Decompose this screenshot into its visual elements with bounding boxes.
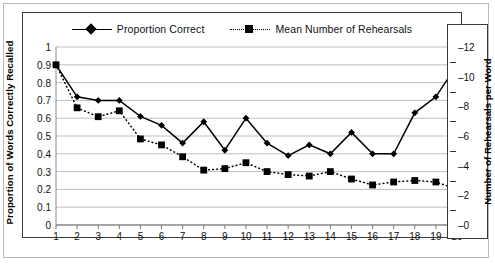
y-axis-tick-label: 0.8 xyxy=(23,77,51,88)
x-axis-tick-label: 1 xyxy=(53,231,59,242)
x-axis-tick-label: 17 xyxy=(388,231,399,242)
y2-axis-tick-label: –10 xyxy=(458,71,475,82)
y2-axis-tick-label: –6 xyxy=(458,131,469,142)
data-point xyxy=(411,177,418,184)
y-axis-tick-label: 0.7 xyxy=(23,95,51,106)
y-axis-tick-label: 0.9 xyxy=(23,59,51,70)
x-axis-tick-label: 12 xyxy=(283,231,294,242)
left-axis-title-text: Proportion of Words Correctly Recalled xyxy=(5,40,16,224)
x-axis-tick-label: 11 xyxy=(262,231,272,242)
y-axis-tick-label: 0.1 xyxy=(23,202,51,213)
data-point xyxy=(327,168,334,175)
data-point xyxy=(95,97,102,104)
plot-frame: Proportion Correct Mean Number of Rehear… xyxy=(22,12,462,238)
y2-axis-minor-tick xyxy=(450,62,456,63)
y2-axis-tick-label: –12 xyxy=(458,42,475,53)
x-axis-tick-label: 9 xyxy=(222,231,228,242)
y-axis-tick-label: 0.4 xyxy=(23,148,51,159)
x-axis-tick-label: 7 xyxy=(180,231,186,242)
x-axis-tick-label: 6 xyxy=(159,231,165,242)
y2-axis-tick-label: –4 xyxy=(458,160,469,171)
x-axis-tick-label: 4 xyxy=(117,231,123,242)
plot-canvas xyxy=(23,13,461,237)
x-axis-tick-label: 13 xyxy=(304,231,315,242)
y2-axis-tick-label: –2 xyxy=(458,190,469,201)
right-axis-title: Number of Rehearsals per Word xyxy=(480,24,495,239)
right-axis-title-text: Number of Rehearsals per Word xyxy=(482,58,493,204)
series-line-2 xyxy=(56,65,457,190)
data-point xyxy=(116,107,123,114)
data-point xyxy=(74,104,81,111)
y2-axis-minor-tick xyxy=(450,210,456,211)
x-axis-tick-label: 19 xyxy=(430,231,441,242)
data-point xyxy=(369,182,376,189)
left-axis-title: Proportion of Words Correctly Recalled xyxy=(2,0,18,264)
data-point xyxy=(306,173,313,180)
data-point xyxy=(390,179,397,186)
data-point xyxy=(200,167,207,174)
data-point xyxy=(306,142,313,149)
data-point xyxy=(243,159,250,166)
data-point xyxy=(179,153,186,160)
y2-axis-tick-label: –0 xyxy=(458,220,469,231)
x-axis-tick-label: 14 xyxy=(325,231,336,242)
data-point xyxy=(95,113,102,120)
x-axis-tick-label: 5 xyxy=(138,231,144,242)
data-point xyxy=(285,171,292,178)
data-point xyxy=(221,165,228,172)
x-axis-tick-label: 3 xyxy=(95,231,101,242)
data-point xyxy=(285,152,292,159)
y-axis-tick-label: 1 xyxy=(23,42,51,53)
data-point xyxy=(137,136,144,143)
data-point xyxy=(432,179,439,186)
data-point xyxy=(390,150,397,157)
y-axis-tick-label: 0.6 xyxy=(23,113,51,124)
y-axis-tick-label: 0.3 xyxy=(23,166,51,177)
x-axis-tick-label: 10 xyxy=(240,231,251,242)
chart-screenshot: Proportion of Words Correctly Recalled P… xyxy=(0,0,495,264)
y2-axis-minor-tick xyxy=(450,151,456,152)
x-axis-tick-label: 8 xyxy=(201,231,207,242)
data-point xyxy=(264,168,271,175)
x-axis-tick-label: 2 xyxy=(74,231,80,242)
x-axis-tick-label: 16 xyxy=(367,231,378,242)
x-axis-tick-label: 18 xyxy=(409,231,420,242)
data-point xyxy=(53,61,60,68)
y2-axis-minor-tick xyxy=(450,121,456,122)
data-point xyxy=(348,176,355,183)
y-axis-tick-label: 0.5 xyxy=(23,131,51,142)
x-axis-tick-label: 15 xyxy=(346,231,357,242)
y-axis-tick-label: 0 xyxy=(23,220,51,231)
y2-axis-minor-tick xyxy=(450,92,456,93)
chart-svg xyxy=(23,13,461,237)
y2-axis-tick-label: –8 xyxy=(458,101,469,112)
y-axis-tick-label: 0.2 xyxy=(23,184,51,195)
y2-axis-minor-tick xyxy=(450,181,456,182)
data-point xyxy=(158,142,165,149)
